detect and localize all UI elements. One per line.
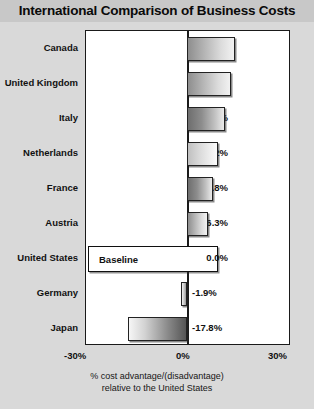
- bar-row: United Kingdom 13.1%: [0, 67, 314, 102]
- category-label: Japan: [0, 322, 78, 333]
- bar-row: Canada 14.5%: [0, 32, 314, 67]
- bar-row-baseline: United States Baseline 0.0%: [0, 242, 314, 277]
- axis-tick-min: -30%: [64, 350, 86, 361]
- bar-netherlands: [187, 142, 218, 166]
- value-label: -1.9%: [192, 287, 217, 298]
- category-label: United States: [0, 252, 78, 263]
- bar-united-kingdom: [187, 72, 231, 96]
- category-label: Canada: [0, 42, 78, 53]
- value-label: 0.0%: [206, 252, 228, 263]
- bar-japan: [128, 317, 187, 341]
- baseline-label: Baseline: [99, 254, 138, 265]
- title-band: International Comparison of Business Cos…: [0, 0, 314, 22]
- page-title: International Comparison of Business Cos…: [0, 3, 314, 18]
- bar-row: France 7.8%: [0, 172, 314, 207]
- bar-germany: [181, 282, 187, 306]
- category-label: France: [0, 182, 78, 193]
- bar-italy: [187, 107, 225, 131]
- value-label: -17.8%: [192, 322, 222, 333]
- axis-tick-zero: 0%: [176, 350, 190, 361]
- category-label: Netherlands: [0, 147, 78, 158]
- axis-caption-line2: relative to the United States: [0, 382, 314, 394]
- category-label: Austria: [0, 217, 78, 228]
- bar-austria: [187, 212, 208, 236]
- axis-caption-line1: % cost advantage/(disadvantage): [0, 370, 314, 382]
- category-label: Germany: [0, 287, 78, 298]
- category-label: Italy: [0, 112, 78, 123]
- value-label: 6.3%: [206, 217, 228, 228]
- bar-france: [187, 177, 213, 201]
- baseline-box: Baseline: [88, 246, 218, 272]
- bar-canada: [187, 37, 235, 61]
- bar-row: Netherlands 9.2%: [0, 137, 314, 172]
- bar-row: Germany -1.9%: [0, 277, 314, 312]
- bar-row: Italy 11.4%: [0, 102, 314, 137]
- axis-caption: % cost advantage/(disadvantage) relative…: [0, 370, 314, 394]
- axis-tick-max: 30%: [268, 350, 287, 361]
- category-label: United Kingdom: [0, 77, 78, 88]
- bar-row: Austria 6.3%: [0, 207, 314, 242]
- bar-row: Japan -17.8%: [0, 312, 314, 347]
